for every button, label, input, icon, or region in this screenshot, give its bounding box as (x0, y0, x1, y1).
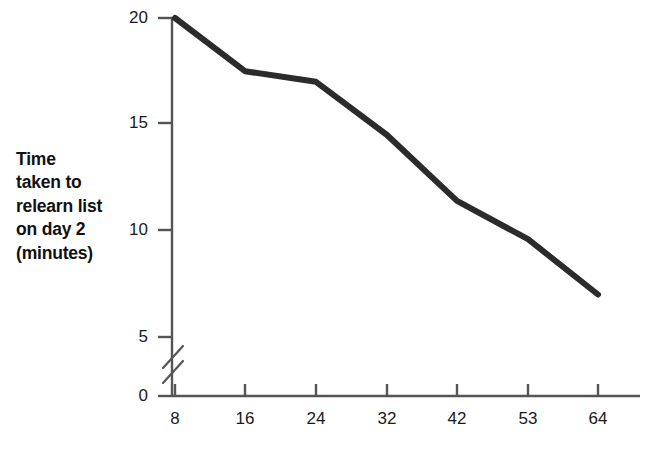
chart-figure: Time taken to relearn list on day 2 (min… (0, 0, 652, 474)
chart-plot-area (0, 0, 652, 474)
axis-lines (172, 18, 640, 396)
data-series-line (175, 18, 598, 295)
y-axis-ticks (158, 18, 172, 396)
x-axis-ticks (175, 384, 598, 396)
